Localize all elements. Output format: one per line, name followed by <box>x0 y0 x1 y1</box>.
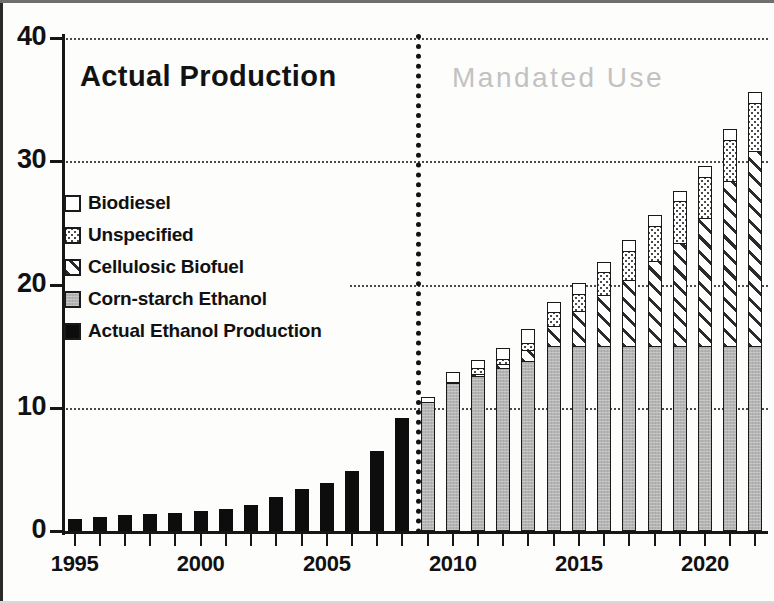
bar-2014 <box>547 297 561 531</box>
bar-segment-unspecified <box>698 177 712 220</box>
x-tick-2014 <box>553 534 555 546</box>
legend-label: Biodiesel <box>88 192 171 214</box>
x-tick-2011 <box>477 534 479 546</box>
bar-segment-corn-starch-ethanol <box>496 368 510 531</box>
bar-segment-actual-ethanol-production <box>68 519 82 531</box>
x-tick-2000 <box>200 534 202 546</box>
bar-segment-corn-starch-ethanol <box>622 346 636 531</box>
x-axis-label-2020: 2020 <box>665 551 745 577</box>
y-axis-label-40: 40 <box>0 23 46 50</box>
bar-2017 <box>622 235 636 531</box>
bar-segment-corn-starch-ethanol <box>698 346 712 531</box>
bar-2020 <box>698 161 712 531</box>
bar-segment-corn-starch-ethanol <box>421 402 435 531</box>
legend-label: Unspecified <box>88 224 194 246</box>
bar-2016 <box>597 257 611 531</box>
x-tick-1995 <box>74 534 76 546</box>
bar-segment-unspecified <box>572 294 586 312</box>
y-axis-label-30: 30 <box>0 146 46 173</box>
bar-2005 <box>320 483 334 531</box>
x-tick-2009 <box>427 534 429 546</box>
bar-2015 <box>572 278 586 531</box>
legend-swatch-icon-gray <box>64 291 81 308</box>
x-tick-2001 <box>225 534 227 546</box>
x-tick-2020 <box>704 534 706 546</box>
x-tick-2007 <box>376 534 378 546</box>
bar-1999 <box>168 513 182 531</box>
bar-segment-unspecified <box>597 272 611 297</box>
x-tick-2004 <box>301 534 303 546</box>
bar-segment-unspecified <box>622 251 636 282</box>
bar-segment-corn-starch-ethanol <box>648 346 662 531</box>
bar-segment-cellulosic-biofuel <box>748 151 762 348</box>
x-tick-2008 <box>401 534 403 546</box>
bar-2001 <box>219 509 233 531</box>
legend-swatch-icon-dots <box>64 227 81 244</box>
bar-segment-actual-ethanol-production <box>93 517 107 531</box>
bar-segment-corn-starch-ethanol <box>723 346 737 531</box>
bar-segment-actual-ethanol-production <box>143 514 157 531</box>
bar-2008 <box>395 418 409 531</box>
legend-label: Actual Ethanol Production <box>88 320 322 342</box>
x-axis-label-1995: 1995 <box>35 551 115 577</box>
bar-segment-actual-ethanol-production <box>320 483 334 531</box>
bar-segment-unspecified <box>748 103 762 152</box>
x-axis-label-2005: 2005 <box>287 551 367 577</box>
bar-2018 <box>648 211 662 531</box>
x-tick-1998 <box>149 534 151 546</box>
bar-segment-cellulosic-biofuel <box>648 261 662 347</box>
bar-2004 <box>295 489 309 531</box>
x-tick-2015 <box>578 534 580 546</box>
x-tick-2017 <box>628 534 630 546</box>
bar-1996 <box>93 517 107 531</box>
x-axis-label-2015: 2015 <box>539 551 619 577</box>
bar-segment-corn-starch-ethanol <box>748 346 762 531</box>
bar-segment-corn-starch-ethanol <box>471 376 485 531</box>
x-tick-2018 <box>654 534 656 546</box>
x-tick-2021 <box>729 534 731 546</box>
legend-item-unspecified: Unspecified <box>64 224 322 246</box>
y-axis-label-0: 0 <box>0 516 46 543</box>
bar-1997 <box>118 515 132 531</box>
bar-segment-actual-ethanol-production <box>295 489 309 531</box>
caption-mandated-use: Mandated Use <box>452 62 664 94</box>
x-tick-2013 <box>527 534 529 546</box>
x-axis-label-2010: 2010 <box>413 551 493 577</box>
bar-segment-unspecified <box>723 140 737 183</box>
bar-segment-cellulosic-biofuel <box>547 326 561 348</box>
bar-2007 <box>370 451 384 531</box>
bar-segment-corn-starch-ethanol <box>521 361 535 531</box>
bar-segment-actual-ethanol-production <box>244 505 258 531</box>
legend-item-cellulosic-biofuel: Cellulosic Biofuel <box>64 256 322 278</box>
bar-2011 <box>471 355 485 531</box>
x-tick-2012 <box>502 534 504 546</box>
period-divider-line <box>416 34 421 534</box>
bar-segment-corn-starch-ethanol <box>547 346 561 531</box>
bar-segment-cellulosic-biofuel <box>673 243 687 348</box>
bar-segment-actual-ethanol-production <box>345 471 359 531</box>
bar-2002 <box>244 505 258 531</box>
chart-figure: 010203040 199520002005201020152020 Actua… <box>0 0 774 603</box>
bar-segment-cellulosic-biofuel <box>597 295 611 347</box>
bar-2022 <box>748 87 762 531</box>
legend-swatch-icon-black <box>64 323 81 340</box>
bar-segment-corn-starch-ethanol <box>446 383 460 531</box>
chart-legend: BiodieselUnspecifiedCellulosic BiofuelCo… <box>64 192 322 342</box>
bar-2003 <box>269 497 283 532</box>
bar-segment-unspecified <box>648 226 662 263</box>
bar-2012 <box>496 344 510 531</box>
x-axis-label-2000: 2000 <box>161 551 241 577</box>
legend-item-corn-starch-ethanol: Corn-starch Ethanol <box>64 288 322 310</box>
x-tick-2003 <box>275 534 277 546</box>
bar-2013 <box>521 324 535 531</box>
x-tick-1996 <box>99 534 101 546</box>
bar-2000 <box>194 511 208 531</box>
bar-segment-corn-starch-ethanol <box>597 346 611 531</box>
x-tick-2019 <box>679 534 681 546</box>
bar-segment-actual-ethanol-production <box>168 513 182 531</box>
bar-2019 <box>673 186 687 531</box>
x-tick-1997 <box>124 534 126 546</box>
bar-segment-actual-ethanol-production <box>370 451 384 531</box>
bar-segment-cellulosic-biofuel <box>698 218 712 347</box>
bar-2009 <box>421 395 435 531</box>
